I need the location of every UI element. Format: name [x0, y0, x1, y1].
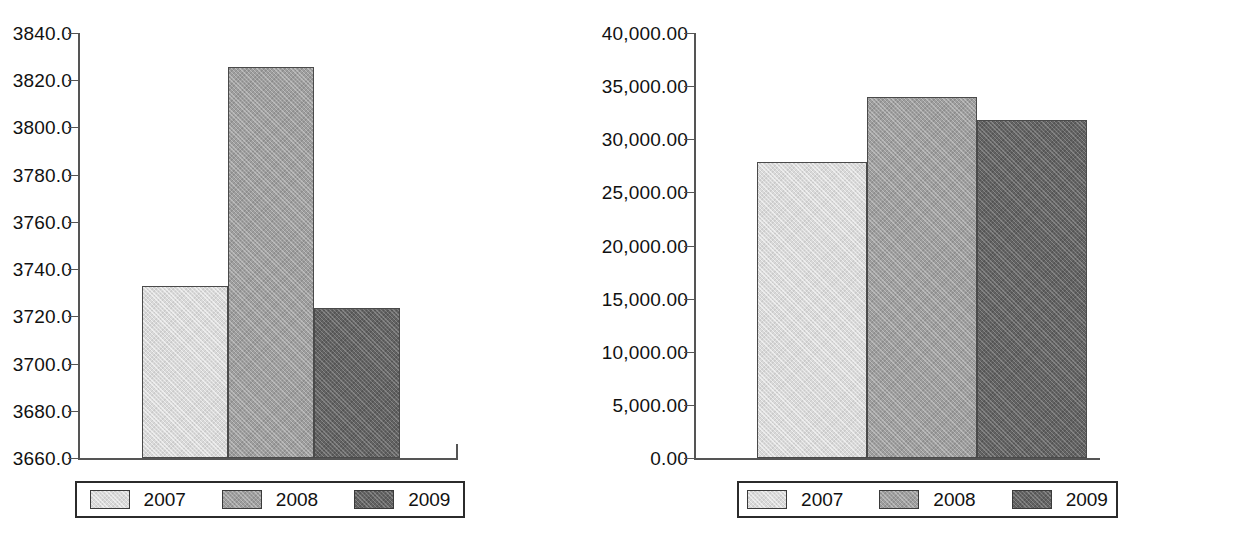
y-axis-tick-label: 3720.0 — [13, 307, 72, 326]
y-axis-tick-mark — [68, 458, 78, 459]
x-axis-line-left — [78, 458, 458, 460]
y-axis-tick-mark — [68, 222, 78, 223]
legend-swatch-icon — [90, 490, 130, 509]
legend-left: 200720082009 — [75, 481, 465, 518]
y-axis-tick-mark — [684, 192, 694, 193]
y-axis-tick-label: 20,000.00 — [602, 236, 688, 255]
y-axis-tick-label: 5,000.00 — [612, 395, 688, 414]
x-axis-line-right — [694, 458, 1100, 460]
legend-entry-2008: 2008 — [879, 490, 1011, 509]
bar-group-right — [757, 0, 1087, 458]
x-axis-endcap-left — [456, 444, 458, 460]
legend-swatch-icon — [222, 490, 262, 509]
y-axis-tick-mark — [684, 458, 694, 459]
legend-label: 2008 — [276, 490, 318, 509]
y-axis-tick-label: 3760.0 — [13, 212, 72, 231]
y-axis-tick-label: 0.00 — [650, 449, 688, 468]
y-axis-tick-label: 3680.0 — [13, 401, 72, 420]
y-axis-tick-label: 3800.0 — [13, 118, 72, 137]
y-axis-tick-mark — [68, 269, 78, 270]
y-axis-tick-mark — [68, 364, 78, 365]
legend-label: 2009 — [408, 490, 450, 509]
y-axis-tick-mark — [684, 405, 694, 406]
y-axis-tick-label: 3780.0 — [13, 165, 72, 184]
y-axis-tick-label: 3660.0 — [13, 449, 72, 468]
legend-entry-2009: 2009 — [1012, 490, 1108, 509]
bar-2008 — [228, 67, 314, 458]
y-axis-tick-label: 25,000.00 — [602, 183, 688, 202]
y-axis-tick-mark — [68, 127, 78, 128]
y-axis-tick-mark — [684, 33, 694, 34]
bar-2009 — [314, 308, 400, 458]
legend-right: 200720082009 — [737, 481, 1118, 518]
y-axis-tick-mark — [68, 80, 78, 81]
plot-area-right: 40,000.0035,000.0030,000.0025,000.0020,0… — [624, 0, 1248, 470]
legend-swatch-icon — [1012, 490, 1052, 509]
legend-entry-2008: 2008 — [222, 490, 354, 509]
legend-swatch-icon — [879, 490, 919, 509]
bar-2009 — [977, 120, 1087, 458]
legend-entry-2007: 2007 — [747, 490, 879, 509]
legend-label: 2007 — [144, 490, 186, 509]
y-axis-tick-label: 3820.0 — [13, 71, 72, 90]
y-axis-tick-mark — [68, 175, 78, 176]
y-axis-tick-mark — [684, 246, 694, 247]
y-axis-tick-mark — [68, 411, 78, 412]
legend-label: 2007 — [801, 490, 843, 509]
legend-label: 2008 — [933, 490, 975, 509]
legend-swatch-icon — [747, 490, 787, 509]
y-axis-line-right — [694, 33, 696, 460]
bar-group-left — [142, 0, 400, 458]
y-axis-line-left — [78, 33, 80, 460]
chart-left: 3840.03820.03800.03780.03760.03740.03720… — [0, 0, 624, 540]
bar-2007 — [757, 162, 867, 458]
legend-swatch-icon — [354, 490, 394, 509]
y-axis-tick-label: 10,000.00 — [602, 342, 688, 361]
y-axis-tick-mark — [684, 86, 694, 87]
y-axis-tick-mark — [68, 33, 78, 34]
y-axis-tick-label: 30,000.00 — [602, 130, 688, 149]
chart-right: 40,000.0035,000.0030,000.0025,000.0020,0… — [624, 0, 1248, 540]
bar-2007 — [142, 286, 228, 458]
y-axis-tick-mark — [68, 316, 78, 317]
legend-entry-2009: 2009 — [354, 490, 450, 509]
y-axis-tick-label: 15,000.00 — [602, 289, 688, 308]
y-axis-tick-label: 40,000.00 — [602, 24, 688, 43]
plot-area-left: 3840.03820.03800.03780.03760.03740.03720… — [0, 0, 624, 470]
y-axis-tick-label: 3740.0 — [13, 260, 72, 279]
bar-2008 — [867, 97, 977, 458]
y-axis-tick-label: 3840.0 — [13, 24, 72, 43]
legend-label: 2009 — [1066, 490, 1108, 509]
y-axis-tick-label: 35,000.00 — [602, 77, 688, 96]
y-axis-tick-mark — [684, 352, 694, 353]
y-axis-tick-label: 3700.0 — [13, 354, 72, 373]
chart-page: 3840.03820.03800.03780.03760.03740.03720… — [0, 0, 1248, 540]
y-axis-tick-mark — [684, 139, 694, 140]
y-axis-tick-mark — [684, 299, 694, 300]
legend-entry-2007: 2007 — [90, 490, 222, 509]
